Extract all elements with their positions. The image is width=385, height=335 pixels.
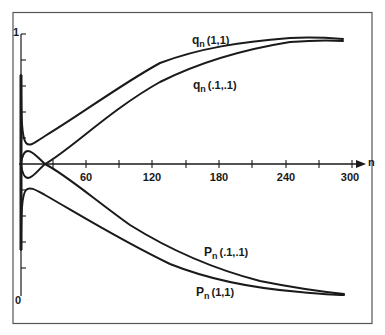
curve-q-01-01: [21, 40, 343, 164]
curve-q-1-1: [21, 38, 343, 145]
x-tick-label: 60: [80, 171, 92, 183]
label-p-01-01: Pn(.1,.1): [204, 245, 249, 261]
x-tick-label: 240: [277, 171, 295, 183]
svg-text:Pn(1,1): Pn(1,1): [196, 285, 234, 301]
x-axis-label: n: [368, 156, 375, 168]
y-label-top: 1: [13, 26, 19, 38]
chart: 1 0 60 120 180 240 300 n qn(: [0, 0, 385, 335]
y-axis: 1 0: [13, 26, 26, 306]
x-tick-label: 300: [341, 171, 359, 183]
x-axis: 60 120 180 240 300 n: [19, 156, 375, 183]
svg-text:Pn(.1,.1): Pn(.1,.1): [204, 245, 249, 261]
chart-frame: [13, 13, 372, 324]
x-tick-label: 180: [210, 171, 228, 183]
y-label-bottom: 0: [15, 294, 21, 306]
arrow-right-icon: [356, 160, 366, 168]
curve-p-1-1: [21, 188, 344, 295]
label-q-01-01: qn(.1,.1): [193, 78, 237, 94]
svg-text:qn(.1,.1): qn(.1,.1): [193, 78, 237, 94]
x-tick-label: 120: [143, 171, 161, 183]
curve-p-01-01: [21, 164, 344, 294]
label-p-1-1: Pn(1,1): [196, 285, 234, 301]
